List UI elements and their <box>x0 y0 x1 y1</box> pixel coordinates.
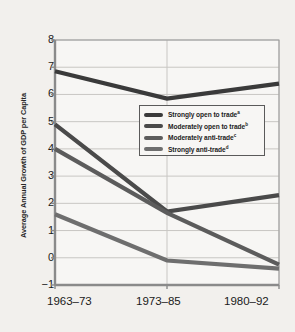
legend-label: Strongly anti-traded <box>168 146 228 153</box>
x-axis-tick-label: 1973–85 <box>136 295 181 307</box>
legend-swatch <box>144 136 163 140</box>
x-axis-tick-label: 1963–73 <box>47 295 92 307</box>
legend-item: Strongly open to tradea <box>144 109 260 121</box>
legend-footnote-marker: c <box>234 133 237 138</box>
x-axis-tick-label: 1980–92 <box>224 295 269 307</box>
legend-swatch <box>144 113 163 117</box>
legend-item: Strongly anti-traded <box>144 144 260 156</box>
legend-label: Moderately anti-tradec <box>168 134 236 141</box>
plot-area <box>0 0 295 332</box>
legend-footnote-marker: d <box>226 145 229 150</box>
legend-footnote-marker: a <box>237 110 240 115</box>
legend-swatch <box>144 124 163 128</box>
legend-swatch <box>144 147 163 151</box>
legend-item: Moderately anti-tradec <box>144 132 260 144</box>
legend-label: Strongly open to tradea <box>168 111 240 118</box>
legend-footnote-marker: b <box>245 122 248 127</box>
legend-label: Moderately open to tradeb <box>168 123 248 130</box>
legend-item: Moderately open to tradeb <box>144 121 260 133</box>
chart-legend: Strongly open to tradeaModerately open t… <box>139 105 265 156</box>
chart-figure: Average Annual Growth of GDP per Capita … <box>0 0 295 332</box>
